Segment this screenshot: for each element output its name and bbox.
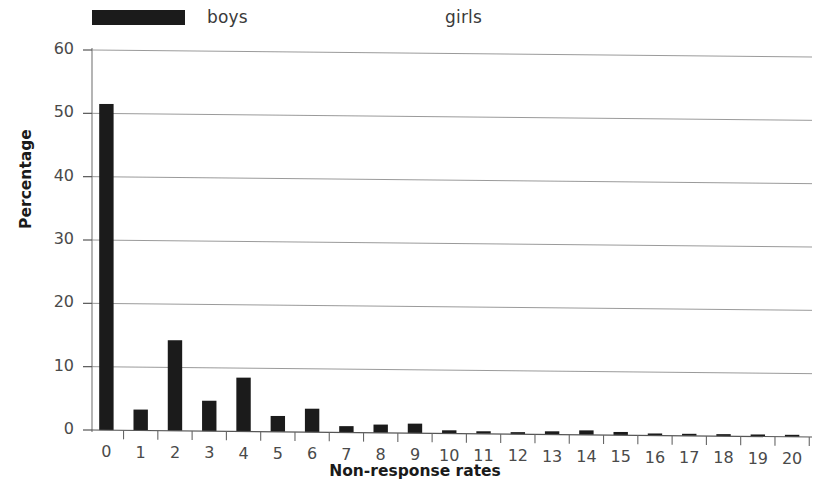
x-tick-label: 17	[674, 448, 704, 467]
bar-chart-figure: boys girls Percentage Non-response rates…	[0, 0, 830, 491]
x-tick-label: 1	[126, 443, 156, 462]
y-tick-label: 0	[34, 419, 74, 438]
y-axis-title: Percentage	[17, 109, 35, 249]
bar-boys-7	[339, 426, 353, 432]
x-tick-label: 5	[263, 444, 293, 463]
x-tick-label: 3	[194, 443, 224, 462]
x-tick-label: 20	[777, 449, 807, 468]
bars-group	[99, 104, 799, 437]
bar-boys-2	[168, 340, 182, 431]
plot-svg	[0, 0, 830, 491]
x-tick-label: 13	[537, 447, 567, 466]
bar-boys-4	[236, 378, 250, 432]
x-tick-label: 19	[743, 449, 773, 468]
y-tick-label: 30	[34, 229, 74, 248]
bar-boys-5	[271, 416, 285, 432]
y-tick-label: 20	[34, 292, 74, 311]
x-tick-label: 2	[160, 443, 190, 462]
x-tick-label: 10	[434, 446, 464, 465]
y-tickmarks-group	[83, 50, 92, 430]
y-tick-label: 40	[34, 166, 74, 185]
bar-boys-14	[579, 430, 593, 434]
bar-boys-8	[373, 425, 387, 433]
y-tick-label: 60	[34, 39, 74, 58]
x-tick-label: 14	[571, 447, 601, 466]
x-tick-label: 4	[229, 444, 259, 463]
bar-boys-0	[99, 104, 113, 430]
axes-group	[92, 48, 812, 437]
plot-area: Percentage Non-response rates 0102030405…	[0, 0, 830, 491]
x-axis-title: Non-response rates	[0, 462, 830, 480]
x-tick-label: 12	[503, 446, 533, 465]
x-tick-label: 15	[606, 447, 636, 466]
x-tick-label: 11	[469, 446, 499, 465]
bar-boys-6	[305, 409, 319, 432]
x-tick-label: 7	[331, 445, 361, 464]
x-tick-label: 6	[297, 444, 327, 463]
x-tick-label: 8	[366, 445, 396, 464]
bar-boys-3	[202, 401, 216, 431]
y-tick-label: 50	[34, 102, 74, 121]
gridlines-group	[92, 50, 812, 374]
x-tick-label: 9	[400, 445, 430, 464]
bar-boys-1	[133, 410, 147, 431]
x-tick-label: 18	[709, 448, 739, 467]
x-tickmarks-group	[124, 430, 810, 446]
bar-boys-9	[408, 424, 422, 434]
y-tick-label: 10	[34, 356, 74, 375]
x-tick-label: 16	[640, 448, 670, 467]
x-tick-label: 0	[91, 442, 121, 461]
